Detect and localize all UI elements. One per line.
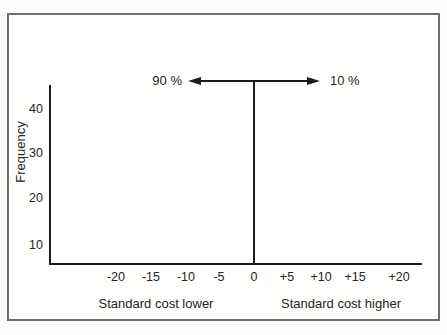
arrow-shaft — [192, 80, 314, 82]
y-tick-label: 10 — [9, 238, 43, 252]
zero-reference-line — [253, 80, 255, 264]
y-axis-line — [49, 85, 51, 265]
xlabel-right: Standard cost higher — [256, 296, 426, 312]
x-tick-label: -15 — [131, 270, 171, 284]
figure: 90 % 10 % Frequency 40 30 20 10 -20 -15 … — [0, 0, 447, 335]
x-tick-label: +20 — [379, 270, 419, 284]
x-tick-label: -5 — [199, 270, 239, 284]
x-tick-label: +15 — [335, 270, 375, 284]
percent-left-label: 90 % — [122, 73, 182, 89]
x-tick-label: -20 — [96, 270, 136, 284]
x-axis-line — [49, 263, 422, 265]
xlabel-left: Standard cost lower — [71, 296, 241, 312]
y-tick-label: 20 — [9, 191, 43, 205]
y-tick-label: 30 — [9, 146, 43, 160]
y-tick-label: 40 — [9, 102, 43, 116]
arrow-left-icon — [188, 77, 201, 85]
arrow-right-icon — [307, 77, 320, 85]
percent-right-label: 10 % — [330, 73, 390, 89]
